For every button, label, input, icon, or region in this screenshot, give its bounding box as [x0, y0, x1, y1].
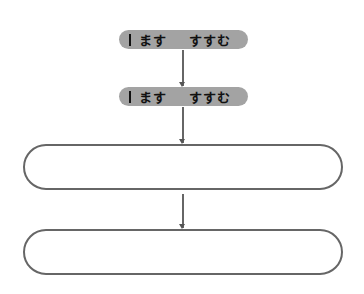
down-arrow-2 — [182, 107, 184, 143]
step-pill-1: ます すすむ — [119, 30, 248, 49]
down-arrow-1 — [182, 50, 184, 86]
pill-word-1: ます — [139, 30, 167, 49]
vertical-bar-mark — [129, 91, 131, 103]
empty-box-1 — [23, 144, 343, 190]
pill-word-2: すすむ — [189, 30, 231, 49]
pill-word-1: ます — [139, 87, 167, 106]
down-arrow-3 — [182, 194, 184, 228]
empty-box-2 — [23, 229, 343, 275]
vertical-bar-mark — [129, 34, 131, 46]
step-pill-2: ます すすむ — [119, 87, 248, 106]
pill-word-2: すすむ — [189, 87, 231, 106]
